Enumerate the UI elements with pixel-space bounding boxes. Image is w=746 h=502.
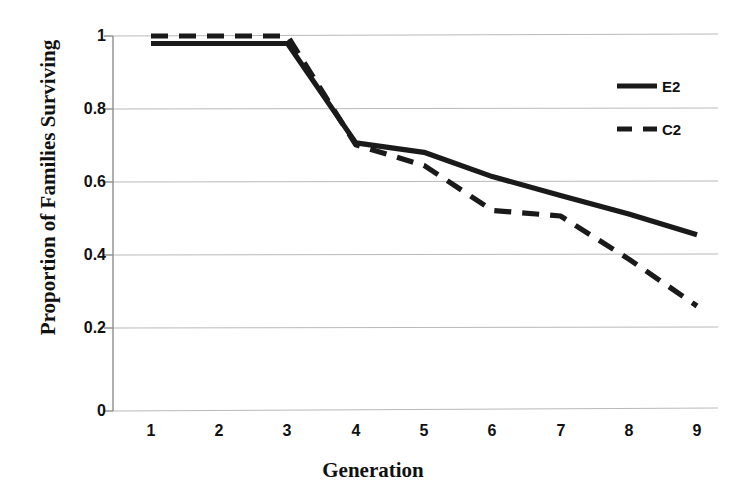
legend-entry-c2: C2 xyxy=(615,121,681,137)
legend-swatch-dashed-icon xyxy=(615,123,659,135)
x-tick-8: 8 xyxy=(609,422,649,440)
x-tick-6: 6 xyxy=(472,422,512,440)
legend: E2 C2 xyxy=(615,70,725,150)
x-axis-title: Generation xyxy=(0,458,746,483)
y-tick-0: 0 xyxy=(46,402,106,420)
x-tick-5: 5 xyxy=(404,422,444,440)
y-axis-title: Proportion of Families Surviving xyxy=(36,0,61,388)
x-tick-1: 1 xyxy=(131,422,171,440)
legend-label-c2: C2 xyxy=(662,121,681,138)
legend-swatch-solid-icon xyxy=(615,80,659,92)
x-tick-7: 7 xyxy=(541,422,581,440)
legend-entry-e2: E2 xyxy=(615,78,680,94)
legend-label-e2: E2 xyxy=(662,78,680,95)
x-tick-3: 3 xyxy=(267,422,307,440)
x-tick-9: 9 xyxy=(677,422,717,440)
chart-figure: 0 0.2 0.4 0.6 0.8 1 1 2 3 4 5 6 7 8 9 Pr… xyxy=(0,0,746,502)
x-tick-4: 4 xyxy=(336,422,376,440)
x-tick-2: 2 xyxy=(199,422,239,440)
